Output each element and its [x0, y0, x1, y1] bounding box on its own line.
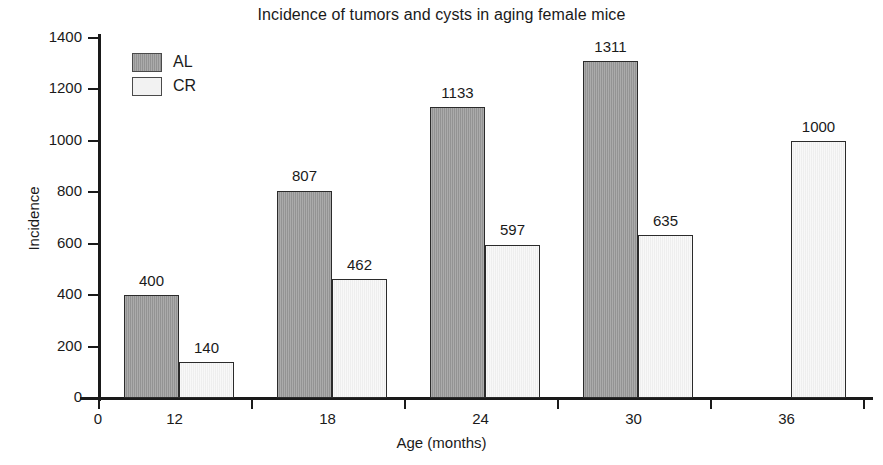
- legend-item-cr: CR: [132, 74, 196, 98]
- bar-cr-30mo: [638, 235, 693, 398]
- legend-item-al: AL: [132, 50, 196, 74]
- x-axis-tick-label: 18: [303, 410, 353, 427]
- y-axis-tick: [88, 243, 98, 245]
- x-axis-tick: [557, 398, 559, 409]
- y-axis-tick-label: 800: [22, 182, 82, 199]
- bar-value-label: 1133: [423, 84, 493, 101]
- y-axis-tick: [88, 346, 98, 348]
- x-axis-origin-label: 0: [73, 410, 123, 427]
- bar-value-label: 635: [631, 212, 701, 229]
- bar-value-label: 400: [117, 272, 187, 289]
- y-axis-tick: [88, 397, 98, 399]
- y-axis-tick-label: 1400: [22, 28, 82, 45]
- x-axis-tick: [98, 398, 100, 409]
- bar-cr-18mo: [332, 279, 387, 398]
- y-axis-tick: [88, 37, 98, 39]
- y-axis-tick: [88, 140, 98, 142]
- y-axis-tick: [88, 88, 98, 90]
- bar-value-label: 1000: [784, 118, 854, 135]
- chart-title: Incidence of tumors and cysts in aging f…: [0, 6, 883, 24]
- x-axis-tick-label: 36: [762, 410, 812, 427]
- plot-area: 400140807462113359713116351000: [98, 38, 873, 398]
- y-axis-label: Incidence: [25, 164, 42, 274]
- y-axis-tick-label: 400: [22, 285, 82, 302]
- x-axis-tick: [251, 398, 253, 409]
- legend-swatch-cr-icon: [132, 77, 162, 96]
- y-axis-tick-label: 1200: [22, 79, 82, 96]
- x-axis-tick: [863, 398, 865, 409]
- y-axis-tick-label: 600: [22, 234, 82, 251]
- bar-chart-figure: Incidence of tumors and cysts in aging f…: [0, 0, 883, 465]
- bar-value-label: 462: [325, 256, 395, 273]
- legend-label-al: AL: [173, 53, 193, 71]
- bar-cr-12mo: [179, 362, 234, 398]
- y-axis-tick-label: 0: [22, 388, 82, 405]
- x-axis-tick: [710, 398, 712, 409]
- x-axis-tick-label: 12: [150, 410, 200, 427]
- y-axis-tick-label: 200: [22, 337, 82, 354]
- bar-cr-24mo: [485, 245, 540, 399]
- bar-cr-36mo: [791, 141, 846, 398]
- bar-al-18mo: [277, 191, 332, 399]
- bar-al-24mo: [430, 107, 485, 398]
- legend-swatch-al-icon: [132, 53, 162, 72]
- y-axis-tick: [88, 191, 98, 193]
- y-axis-tick-label: 1000: [22, 131, 82, 148]
- x-axis-tick-label: 30: [609, 410, 659, 427]
- x-axis-label: Age (months): [0, 434, 883, 451]
- y-axis-tick: [88, 294, 98, 296]
- bar-value-label: 807: [270, 167, 340, 184]
- x-axis-tick: [404, 398, 406, 409]
- legend-label-cr: CR: [173, 77, 196, 95]
- chart-legend: AL CR: [132, 50, 196, 98]
- bar-value-label: 1311: [576, 38, 646, 55]
- bar-al-30mo: [583, 61, 638, 398]
- bar-value-label: 597: [478, 221, 548, 238]
- x-axis-tick-label: 24: [456, 410, 506, 427]
- bar-value-label: 140: [172, 339, 242, 356]
